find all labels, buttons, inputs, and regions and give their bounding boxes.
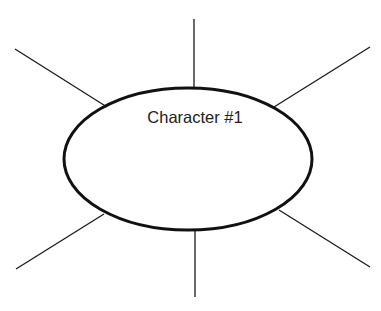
spoke-lower-right [279, 210, 370, 267]
spoke-upper-right [274, 47, 370, 107]
character-label: Character #1 [110, 108, 280, 127]
web-diagram [0, 0, 381, 311]
spoke-upper-left [15, 49, 107, 107]
spoke-lower-left [16, 214, 104, 269]
